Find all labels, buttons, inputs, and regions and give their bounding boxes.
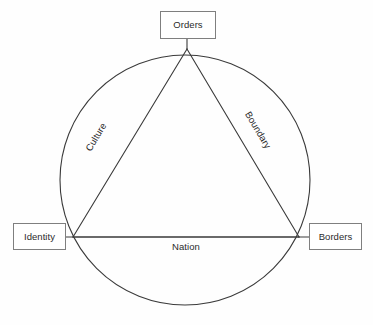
triangle-edge-boundary xyxy=(187,49,299,237)
node-orders[interactable]: Orders xyxy=(160,11,216,39)
diagram-graphics xyxy=(0,0,373,325)
edge-label-nation: Nation xyxy=(172,242,200,252)
node-borders[interactable]: Borders xyxy=(309,223,362,250)
node-identity[interactable]: Identity xyxy=(13,223,66,250)
outer-circle xyxy=(60,55,310,305)
diagram-canvas: Orders Identity Borders Culture Boundary… xyxy=(0,0,373,325)
